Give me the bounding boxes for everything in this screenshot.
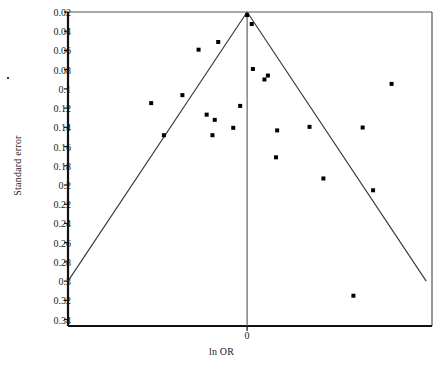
data-point-9 bbox=[149, 101, 153, 105]
data-point-21 bbox=[371, 188, 375, 192]
data-point-22 bbox=[351, 294, 355, 298]
plot-frame bbox=[68, 12, 432, 326]
data-point-16 bbox=[361, 126, 365, 130]
data-point-6 bbox=[262, 77, 266, 81]
study-data-points bbox=[149, 13, 393, 298]
data-point-5 bbox=[266, 74, 270, 78]
data-point-8 bbox=[180, 93, 184, 97]
data-point-18 bbox=[210, 133, 214, 137]
data-point-4 bbox=[251, 67, 255, 71]
funnel-plot-figure: Standard error ln OR 0.020.040.060.080.1… bbox=[0, 0, 443, 365]
data-point-2 bbox=[216, 40, 220, 44]
data-point-14 bbox=[275, 128, 279, 132]
data-point-10 bbox=[238, 104, 242, 108]
data-point-11 bbox=[205, 113, 209, 117]
data-point-19 bbox=[274, 155, 278, 159]
funnel-left-bound bbox=[68, 12, 247, 281]
data-point-13 bbox=[231, 126, 235, 130]
data-point-3 bbox=[197, 48, 201, 52]
data-point-15 bbox=[308, 125, 312, 129]
axis-tick-marks bbox=[64, 12, 247, 331]
data-point-17 bbox=[162, 133, 166, 137]
data-point-0 bbox=[245, 13, 249, 17]
data-point-12 bbox=[213, 118, 217, 122]
funnel-right-bound bbox=[247, 12, 426, 281]
plot-canvas bbox=[0, 0, 443, 365]
data-point-20 bbox=[321, 176, 325, 180]
data-point-1 bbox=[250, 22, 254, 26]
data-point-7 bbox=[390, 82, 394, 86]
